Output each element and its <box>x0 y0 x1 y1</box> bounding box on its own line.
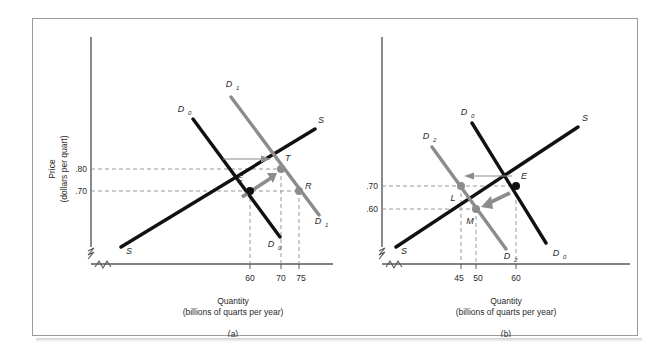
point-M <box>472 205 480 213</box>
svg-text:2: 2 <box>513 257 518 263</box>
point-label-E: E <box>521 171 528 181</box>
ytick-label-080: .80 <box>75 164 87 174</box>
y-axis-break-icon <box>379 248 385 259</box>
xtick-label-60: 60 <box>245 273 255 283</box>
equilibrium-move-arrow <box>242 178 271 197</box>
curve-label-s-lower: S <box>126 246 132 256</box>
x-axis-title-line1: Quantity <box>490 296 522 306</box>
curve-label-d0-upper: D 0 <box>178 104 192 116</box>
curve-label-d0-lower: D 0 <box>553 248 567 260</box>
x-axis-title-line1: Quantity <box>217 296 249 306</box>
svg-text:D: D <box>226 79 233 89</box>
panel-b-caption: (b) <box>501 329 512 337</box>
xtick-label-60: 60 <box>511 273 521 283</box>
svg-text:0: 0 <box>471 113 475 119</box>
equilibrium-move-arrowhead <box>481 196 493 209</box>
curve-label-d0-upper: D 0 <box>461 107 475 119</box>
xtick-label-75: 75 <box>296 273 306 283</box>
x-axis-title-line2: (billions of quarts per year) <box>456 307 557 317</box>
ytick-label-060: .60 <box>366 204 378 214</box>
svg-text:1: 1 <box>325 222 328 228</box>
panel-b: .70 .60 45 50 60 Quantity (billions of q… <box>334 19 637 337</box>
svg-text:0: 0 <box>188 110 192 116</box>
svg-text:D: D <box>553 248 560 258</box>
supply-curve <box>121 129 315 247</box>
curve-label-s-upper: S <box>318 115 324 125</box>
svg-text:D: D <box>268 239 275 249</box>
curve-label-d0-lower: D 0 <box>268 239 282 251</box>
curve-label-d1-lower: D 1 <box>315 216 329 228</box>
y-axis-title-line1: Price <box>47 159 57 179</box>
point-label-T: T <box>285 153 292 163</box>
frame-shadow <box>36 338 642 342</box>
figure-frame: Price (dollars per quart) .80 .70 60 70 … <box>32 18 638 336</box>
ytick-label-070: .70 <box>75 186 87 196</box>
svg-text:2: 2 <box>432 137 437 143</box>
ytick-label-070: .70 <box>366 181 378 191</box>
point-T <box>277 165 285 173</box>
svg-text:D: D <box>461 107 468 117</box>
demand-shift-arrowhead <box>464 173 474 180</box>
svg-text:D: D <box>423 131 430 141</box>
equilibrium-move-arrow <box>489 193 510 203</box>
y-axis-title-line2: (dollars per quart) <box>59 135 69 202</box>
svg-text:D: D <box>178 104 185 114</box>
demand-curve-d0 <box>472 123 546 243</box>
svg-text:D: D <box>315 216 322 226</box>
point-label-E: E <box>237 173 244 183</box>
svg-text:1: 1 <box>236 85 239 91</box>
curve-label-d2-upper: D 2 <box>423 131 437 143</box>
y-axis-break-icon <box>88 248 94 259</box>
curve-label-s-lower: S <box>401 246 407 256</box>
point-E <box>512 182 520 190</box>
xtick-label-70: 70 <box>276 273 286 283</box>
point-label-M: M <box>466 216 474 226</box>
panel-a-caption: (a) <box>228 329 239 337</box>
curve-label-s-upper: S <box>582 113 588 123</box>
panel-b-chart: .70 .60 45 50 60 Quantity (billions of q… <box>334 19 637 337</box>
panel-a: Price (dollars per quart) .80 .70 60 70 … <box>33 19 336 337</box>
x-axis-title-line2: (billions of quarts per year) <box>183 307 284 317</box>
svg-text:0: 0 <box>563 254 567 260</box>
point-label-L: L <box>450 193 455 203</box>
point-R <box>295 187 303 195</box>
panel-a-chart: Price (dollars per quart) .80 .70 60 70 … <box>33 19 336 337</box>
point-label-R: R <box>305 181 312 191</box>
curve-label-d1-upper: D 1 <box>226 79 240 91</box>
svg-text:D: D <box>504 251 511 261</box>
point-E <box>246 187 254 195</box>
point-L <box>457 182 465 190</box>
xtick-label-50: 50 <box>473 273 483 283</box>
xtick-label-45: 45 <box>454 273 464 283</box>
